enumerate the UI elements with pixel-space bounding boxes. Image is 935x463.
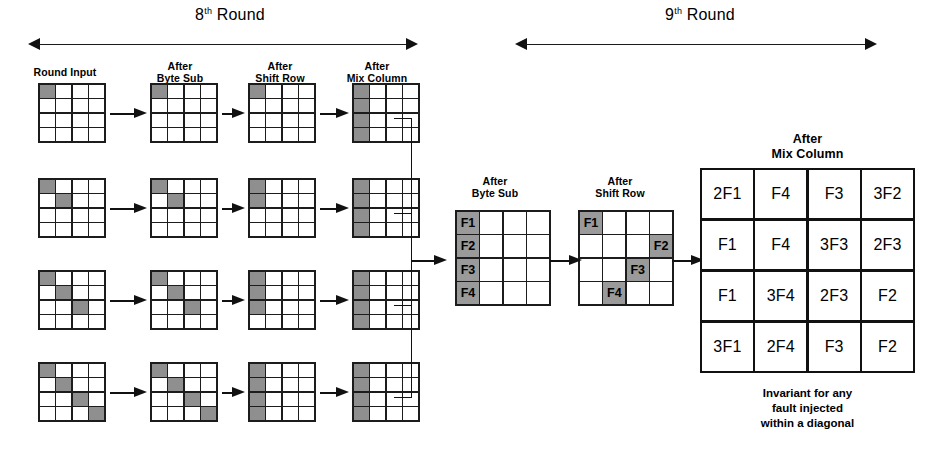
- grid-cell: [283, 407, 298, 420]
- grid-cell: [40, 407, 55, 420]
- grid-cell: [152, 99, 167, 112]
- arrow-shaft: [524, 44, 868, 45]
- grid-cell: [185, 315, 200, 328]
- mix-column-cell: F3: [809, 170, 860, 218]
- grid-cell: [299, 128, 314, 141]
- grid-cell: [73, 301, 88, 314]
- grid-cell: [185, 393, 200, 406]
- grid-cell: [168, 393, 183, 406]
- grid-cell: [387, 194, 402, 207]
- grid-cell: [283, 194, 298, 207]
- grid-cell: [73, 194, 88, 207]
- arrow-shaft: [110, 392, 137, 394]
- grid-cell: [387, 315, 402, 328]
- grid-cell: [168, 180, 183, 193]
- grid-cell: [201, 393, 216, 406]
- grid-cell: [73, 393, 88, 406]
- mix-column-cell: F4: [755, 221, 806, 269]
- grid-cell: [299, 378, 314, 391]
- grid-cell: [387, 180, 402, 193]
- arrow-head-right-icon: [406, 38, 418, 50]
- grid-cell: [354, 378, 369, 391]
- round-9-word: Round: [687, 6, 735, 23]
- grid-cell: F4: [603, 282, 625, 304]
- state-grid-after-mix-column-row-4: [352, 362, 420, 422]
- grid-cell: [185, 286, 200, 299]
- grid-cell: [168, 272, 183, 285]
- grid-cell: [152, 128, 167, 141]
- grid-cell: [580, 235, 602, 257]
- grid-cell: [527, 235, 549, 257]
- caption-line-1: After: [700, 132, 915, 147]
- grid-cell: [201, 223, 216, 236]
- grid-cell: [185, 364, 200, 377]
- grid-cell: [152, 114, 167, 127]
- grid-cell: [266, 272, 281, 285]
- grid-cell: [168, 114, 183, 127]
- grid-cell: [283, 114, 298, 127]
- grid-cell: [250, 85, 265, 98]
- grid-cell: [299, 364, 314, 377]
- grid-cell: [201, 194, 216, 207]
- grid-cell: [283, 85, 298, 98]
- arrow-head-icon: [336, 387, 349, 397]
- grid-cell: [40, 128, 55, 141]
- grid-cell: [56, 364, 71, 377]
- flow-arrow-row-2-step-3: [320, 203, 349, 214]
- grid-cell: [580, 259, 602, 281]
- grid-cell: [201, 272, 216, 285]
- grid-cell: [299, 209, 314, 222]
- bus-branch-row-4: [394, 397, 412, 398]
- grid-cell: [266, 128, 281, 141]
- state-grid-after-mix-column-row-3: [352, 270, 420, 330]
- grid-cell: [370, 85, 385, 98]
- grid-cell: [266, 194, 281, 207]
- grid-cell: [168, 194, 183, 207]
- grid-cell: [185, 378, 200, 391]
- grid-cell: [266, 85, 281, 98]
- arrow-head-icon: [336, 203, 349, 213]
- grid-cell: [56, 209, 71, 222]
- grid-cell: [370, 223, 385, 236]
- grid-cell: [504, 282, 526, 304]
- round-8-span-arrow: [28, 38, 418, 51]
- grid-cell: [152, 378, 167, 391]
- grid-cell: [73, 99, 88, 112]
- flow-arrow-row-2-step-2: [222, 203, 245, 214]
- grid-cell: [299, 194, 314, 207]
- grid-cell: [480, 282, 502, 304]
- state-grid-round-input-row-1: [38, 83, 106, 143]
- arrow-head-icon: [569, 255, 582, 265]
- grid-cell: F2: [457, 235, 479, 257]
- grid-cell: [40, 209, 55, 222]
- grid-cell: [73, 407, 88, 420]
- arrow-head-icon: [232, 108, 245, 118]
- grid-cell: [168, 364, 183, 377]
- grid-cell: [387, 407, 402, 420]
- grid-cell: [299, 223, 314, 236]
- grid-cell: [283, 209, 298, 222]
- grid-cell: [152, 209, 167, 222]
- grid-cell: [266, 378, 281, 391]
- grid-cell: [266, 407, 281, 420]
- grid-cell: [370, 407, 385, 420]
- grid-cell: [403, 407, 418, 420]
- grid-cell: [185, 99, 200, 112]
- grid-cell: [266, 223, 281, 236]
- grid-cell: [354, 272, 369, 285]
- grid-cell: [250, 99, 265, 112]
- state-grid-after-byte-sub-row-3: [150, 270, 218, 330]
- grid-cell: [40, 301, 55, 314]
- grid-cell: [40, 99, 55, 112]
- caption-r9-after-byte-sub: After Byte Sub: [440, 175, 550, 199]
- grid-cell: [387, 85, 402, 98]
- footnote-line-3: within a diagonal: [700, 416, 915, 431]
- mix-column-cell: F1: [702, 272, 753, 320]
- grid-cell: [73, 128, 88, 141]
- grid-cell: [89, 180, 104, 193]
- grid-cell: [387, 223, 402, 236]
- grid-cell: [283, 128, 298, 141]
- grid-cell: [387, 286, 402, 299]
- arrow-head-icon: [134, 108, 147, 118]
- flow-arrow-row-4-step-1: [110, 387, 147, 398]
